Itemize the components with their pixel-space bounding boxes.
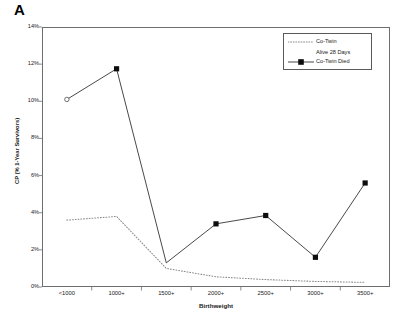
x-tick-label: 2500+: [258, 291, 274, 297]
y-tick-label: 10%: [28, 98, 39, 104]
legend-label-died: Co-Twin Died: [316, 59, 350, 65]
x-tick-label: 2000+: [208, 291, 224, 297]
y-tick-label: 4%: [31, 210, 39, 216]
x-tick-label: 1500+: [158, 291, 174, 297]
legend-label-alive-line1: Co-Twin: [316, 39, 337, 45]
y-tick-label: 14%: [28, 24, 39, 30]
legend-item-co-twin-alive[interactable]: Co-Twin Alive 28 Days: [284, 37, 373, 47]
legend-item-co-twin-died[interactable]: Co-Twin Died: [284, 57, 373, 67]
x-tick-label: 1000+: [108, 291, 124, 297]
y-tick-label: 8%: [31, 135, 39, 141]
figure-panel-a: A 0%2%4%6%8%10%12%14% CP (% 1-Year Survi…: [0, 0, 404, 321]
x-tick-label: 3500+: [357, 291, 373, 297]
x-axis-title: Birthweight: [42, 303, 390, 309]
legend-key-dotted-line: [288, 37, 314, 47]
chart-legend: Co-Twin Alive 28 Days Co-Twin Died: [283, 33, 372, 70]
x-tick-label: 3000+: [307, 291, 323, 297]
y-tick-label: 12%: [28, 61, 39, 67]
y-tick-label: 6%: [31, 173, 39, 179]
y-tick-label: 2%: [31, 247, 39, 253]
y-axis-title: CP (% 1-Year Survivors): [15, 81, 21, 221]
legend-label-alive-line2: Alive 28 Days: [316, 50, 350, 56]
x-tick-label: <1000: [59, 291, 75, 297]
legend-key-solid-line-square: [288, 57, 314, 67]
y-tick-label: 0%: [31, 284, 39, 290]
